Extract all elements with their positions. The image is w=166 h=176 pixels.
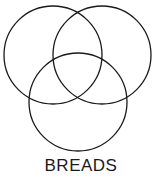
venn-diagram — [0, 0, 166, 176]
venn-circle-bottom — [29, 53, 127, 151]
diagram-label: BREADS — [0, 156, 162, 176]
